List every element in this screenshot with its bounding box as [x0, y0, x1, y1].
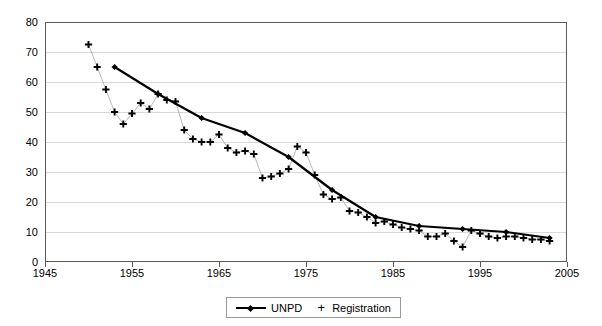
y-axis-tick-label: 40 — [0, 137, 38, 148]
gridline — [46, 52, 566, 53]
gridline — [46, 82, 566, 83]
y-axis-tick-label: 70 — [0, 47, 38, 58]
line-diamond-icon — [236, 303, 266, 312]
y-axis-tick-label: 80 — [0, 17, 38, 28]
chart-legend: UNPD + Registration — [226, 297, 401, 318]
gridline — [46, 232, 566, 233]
x-axis-tick-label: 1975 — [276, 268, 336, 279]
gridline — [46, 202, 566, 203]
y-axis-tick-label: 50 — [0, 107, 38, 118]
x-axis-tick-label: 1965 — [189, 268, 249, 279]
legend-label-registration: Registration — [332, 302, 391, 314]
x-axis-tick-label: 1995 — [450, 268, 510, 279]
gridline — [46, 112, 566, 113]
gridline — [46, 172, 566, 173]
x-axis-tick-label: 1955 — [102, 268, 162, 279]
legend-label-unpd: UNPD — [271, 302, 302, 314]
gridline — [46, 142, 566, 143]
plus-marker-icon: + — [315, 301, 327, 314]
x-axis-tick-label: 1945 — [15, 268, 75, 279]
legend-item-registration: + Registration — [315, 301, 391, 314]
x-axis-tick-label: 2005 — [537, 268, 597, 279]
chart-container: UNPD + Registration 01020304050607080194… — [0, 0, 602, 326]
y-axis-tick-label: 20 — [0, 197, 38, 208]
y-axis-tick-label: 10 — [0, 227, 38, 238]
plot-area — [45, 22, 567, 262]
y-axis-tick-label: 30 — [0, 167, 38, 178]
y-axis-tick-label: 60 — [0, 77, 38, 88]
legend-item-unpd: UNPD — [236, 302, 302, 314]
x-axis-tick-label: 1985 — [363, 268, 423, 279]
